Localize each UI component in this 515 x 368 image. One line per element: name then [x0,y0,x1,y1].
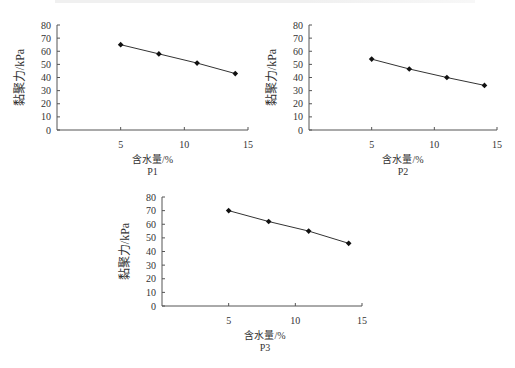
data-point-marker [194,60,200,66]
data-point-marker [118,42,124,48]
y-tick-label: 20 [293,98,303,109]
y-tick-label: 40 [146,246,156,257]
x-tick-label: 10 [290,315,300,326]
x-tick-label: 5 [369,139,374,150]
y-tick-label: 60 [146,219,156,230]
x-tick-label: 10 [429,139,439,150]
y-tick-label: 0 [46,125,51,136]
y-tick-label: 20 [41,98,51,109]
x-tick-label: 15 [243,139,253,150]
y-tick-label: 20 [146,273,156,284]
data-point-marker [306,228,312,234]
y-tick-label: 0 [298,125,303,136]
data-point-marker [406,66,412,72]
panel-title: P3 [260,342,271,353]
y-tick-label: 70 [41,33,51,44]
panel-title: P2 [398,166,409,177]
y-axis-label: 黏聚力/kPa [118,222,132,280]
y-tick-label: 70 [293,33,303,44]
x-tick-label: 5 [226,315,231,326]
y-tick-label: 80 [146,192,156,203]
y-tick-label: 70 [146,205,156,216]
chart-p2: 0102030405060708051015黏聚力/kPa含水量/%P2 [265,20,502,178]
y-tick-label: 50 [41,59,51,70]
data-point-marker [444,75,450,81]
y-tick-label: 80 [41,20,51,31]
y-tick-label: 10 [146,287,156,298]
x-axis-label: 含水量/% [244,329,285,341]
y-tick-label: 80 [293,20,303,31]
y-tick-label: 10 [41,111,51,122]
data-point-marker [232,71,238,77]
data-point-marker [156,51,162,57]
data-point-marker [266,219,272,225]
x-tick-label: 5 [118,139,123,150]
data-line [121,45,236,74]
y-tick-label: 50 [146,232,156,243]
y-tick-label: 60 [41,46,51,57]
data-line [372,59,485,85]
x-axis-label: 含水量/% [132,153,173,165]
x-tick-label: 10 [179,139,189,150]
y-tick-label: 10 [293,111,303,122]
data-line [229,211,349,244]
y-tick-label: 40 [41,72,51,83]
y-tick-label: 50 [293,59,303,70]
x-axis-label: 含水量/% [382,153,423,165]
y-tick-label: 60 [293,46,303,57]
x-tick-label: 15 [357,315,367,326]
y-tick-label: 30 [146,260,156,271]
y-tick-label: 30 [293,85,303,96]
panel-title: P1 [147,166,158,177]
data-point-marker [482,83,488,89]
data-point-marker [346,240,352,246]
chart-p3: 0102030405060708051015黏聚力/kPa含水量/%P3 [118,192,367,354]
data-point-marker [369,56,375,62]
charts-canvas: 0102030405060708051015黏聚力/kPa含水量/%P10102… [0,0,515,368]
y-tick-label: 30 [41,85,51,96]
y-tick-label: 40 [293,72,303,83]
y-tick-label: 0 [151,301,156,312]
y-axis-label: 黏聚力/kPa [265,48,279,106]
data-point-marker [226,208,232,214]
x-tick-label: 15 [492,139,502,150]
y-axis-label: 黏聚力/kPa [13,48,27,106]
chart-p1: 0102030405060708051015黏聚力/kPa含水量/%P1 [13,20,253,178]
